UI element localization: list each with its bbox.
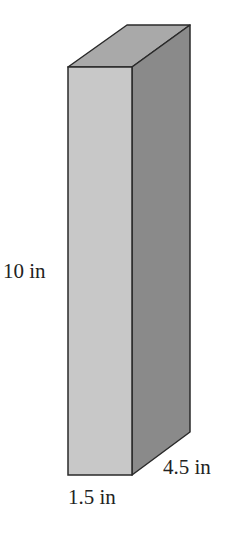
side-face (132, 25, 190, 475)
prism-diagram: 10 in 1.5 in 4.5 in (0, 0, 241, 534)
height-label: 10 in (3, 259, 46, 283)
width-label: 1.5 in (68, 485, 116, 509)
depth-label: 4.5 in (163, 455, 211, 479)
front-face (68, 67, 132, 475)
